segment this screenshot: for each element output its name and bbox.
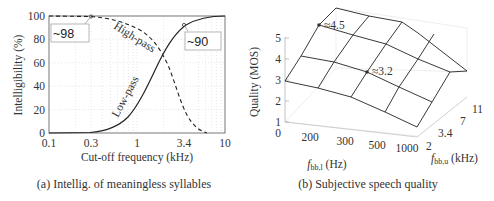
annotation-3.2: ≈3.2 (372, 65, 393, 77)
svg-text:0: 0 (275, 127, 281, 139)
marker-4.5 (317, 23, 321, 27)
caption-b: (b) Subjective speech quality (298, 177, 438, 191)
svg-text:7: 7 (460, 115, 466, 127)
svg-text:60: 60 (34, 57, 46, 69)
intelligibility-chart: 0 20 40 60 80 100 0.1 0.3 1 3.4 10 Cut-o… (12, 10, 231, 191)
svg-text:4: 4 (275, 53, 281, 65)
z-axis-label: Quality (MOS) (248, 47, 261, 117)
marker-3.2 (365, 70, 369, 74)
quality-surface-chart: 1 2 3 4 5 Quality (MOS) 0 200 300 500 10… (248, 8, 483, 191)
x-tick-labels: 0.1 0.3 1 3.4 10 (42, 137, 231, 149)
figure: 0 20 40 60 80 100 0.1 0.3 1 3.4 10 Cut-o… (0, 0, 494, 201)
svg-text:~98: ~98 (53, 27, 74, 41)
svg-text:80: 80 (34, 33, 46, 45)
svg-text:3.4: 3.4 (177, 137, 192, 149)
annotation-90: ~90 (185, 32, 221, 50)
svg-text:1: 1 (134, 137, 140, 149)
z-tick-labels: 1 2 3 4 5 (275, 32, 281, 128)
x-axis-label-3d: fbb,l (Hz) (307, 158, 347, 172)
svg-text:10: 10 (219, 137, 231, 149)
svg-text:500: 500 (368, 139, 386, 151)
svg-text:100: 100 (28, 10, 46, 22)
svg-text:0.3: 0.3 (84, 137, 99, 149)
x-axis-label: Cut-off frequency (kHz) (81, 151, 193, 164)
svg-text:5: 5 (275, 32, 281, 44)
svg-text:2: 2 (275, 95, 281, 107)
svg-text:3.4: 3.4 (438, 127, 453, 139)
svg-text:40: 40 (34, 80, 46, 92)
y-tick-labels-3d: 2 3.4 7 11 (426, 103, 483, 152)
annotation-4.5: ≈4.5 (324, 19, 345, 31)
svg-text:3: 3 (275, 74, 281, 86)
svg-text:~90: ~90 (187, 35, 208, 49)
caption-a: (a) Intellig. of meaningless syllables (37, 177, 212, 191)
high-pass-label: High-pass (111, 20, 158, 56)
svg-text:0.1: 0.1 (42, 137, 57, 149)
svg-text:11: 11 (472, 103, 483, 115)
svg-text:2: 2 (426, 140, 432, 152)
y-axis-label: Intelligibility (%) (12, 34, 25, 115)
svg-text:300: 300 (336, 135, 354, 147)
annotation-98: ~98 (51, 24, 89, 42)
x-tick-labels-3d: 0 200 300 500 1000 (275, 127, 419, 154)
y-tick-labels: 0 20 40 60 80 100 (28, 10, 46, 139)
svg-text:1000: 1000 (396, 142, 419, 154)
svg-text:20: 20 (34, 104, 46, 116)
svg-text:200: 200 (301, 131, 319, 143)
y-axis-label-3d: fbb,u (kHz) (431, 152, 478, 166)
